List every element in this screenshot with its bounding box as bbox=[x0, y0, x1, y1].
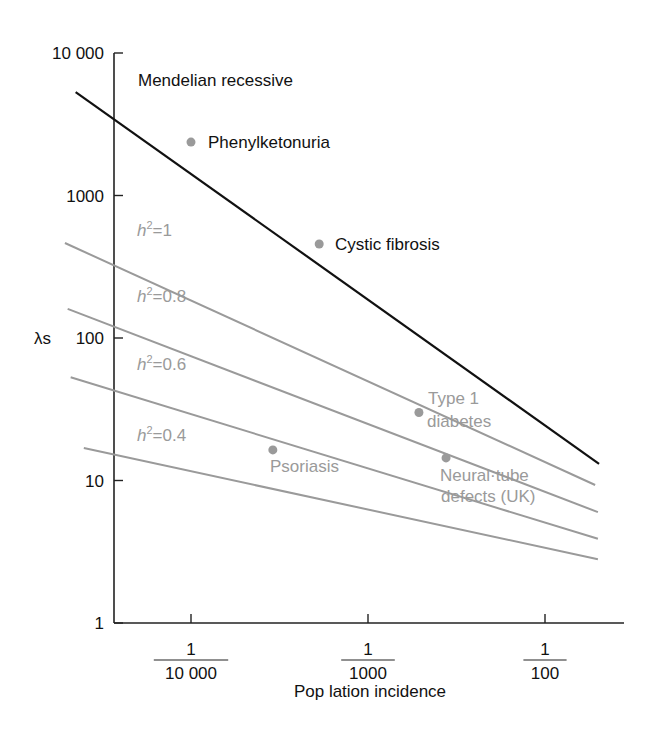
heritability-label: h2=0.8 bbox=[137, 285, 186, 306]
y-tick-label: 100 bbox=[76, 329, 104, 348]
x-ticks: 110 000110001100 bbox=[154, 614, 567, 683]
mendelian-recessive-line bbox=[76, 92, 599, 464]
data-point bbox=[187, 138, 196, 147]
y-axis-title: λs bbox=[34, 329, 51, 348]
x-tick-denominator: 100 bbox=[531, 664, 559, 683]
x-tick-denominator: 10 000 bbox=[165, 664, 217, 683]
heritability-label: h2=1 bbox=[137, 219, 172, 240]
data-point bbox=[315, 239, 324, 248]
heritability-label: h2=0.6 bbox=[137, 353, 186, 374]
cf-label: Cystic fibrosis bbox=[335, 235, 440, 254]
heritability-label: h2=0.4 bbox=[137, 424, 186, 445]
y-tick-label: 10 000 bbox=[52, 44, 104, 63]
ntd-label-line2: defects (UK) bbox=[441, 487, 535, 506]
x-axis-title: Pop lation incidence bbox=[294, 682, 446, 701]
y-tick-label: 1 bbox=[95, 614, 104, 633]
x-tick-numerator: 1 bbox=[363, 640, 372, 659]
y-tick-label: 1000 bbox=[66, 187, 104, 206]
data-point bbox=[268, 445, 277, 454]
y-tick-label: 10 bbox=[85, 472, 104, 491]
recurrence-risk-chart: 110100100010 000 110 000110001100 λs Pop… bbox=[0, 0, 653, 735]
type1-label-line2: diabetes bbox=[427, 412, 491, 431]
x-tick-numerator: 1 bbox=[186, 640, 195, 659]
ntd-label-line1: Neural·tube bbox=[440, 466, 529, 485]
data-points bbox=[187, 138, 451, 463]
pku-label: Phenylketonuria bbox=[208, 133, 330, 152]
x-tick-denominator: 1000 bbox=[349, 664, 387, 683]
psoriasis-label: Psoriasis bbox=[270, 457, 339, 476]
mendelian-label: Mendelian recessive bbox=[138, 71, 293, 90]
data-point bbox=[414, 408, 423, 417]
data-point bbox=[442, 453, 451, 462]
y-ticks: 110100100010 000 bbox=[52, 44, 123, 633]
x-tick-numerator: 1 bbox=[540, 640, 549, 659]
chart-container: 110100100010 000 110 000110001100 λs Pop… bbox=[0, 0, 653, 735]
type1-label-line1: Type 1 bbox=[428, 389, 479, 408]
